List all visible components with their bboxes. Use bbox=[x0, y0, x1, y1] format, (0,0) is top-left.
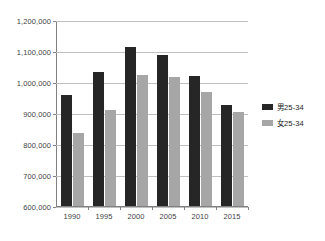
x-tick-mark bbox=[120, 207, 121, 210]
x-tick-mark bbox=[248, 207, 249, 210]
gridline bbox=[56, 145, 248, 146]
legend: 男25-34 女25-34 bbox=[262, 100, 304, 132]
bar-2010-female bbox=[201, 92, 212, 206]
legend-label-female: 女25-34 bbox=[277, 117, 304, 128]
bar-2015-female bbox=[233, 112, 244, 206]
bar-1990-female bbox=[73, 133, 84, 206]
gridline bbox=[56, 21, 248, 22]
bar-1990-male bbox=[61, 95, 72, 206]
chart-screenshot: 1,200,0001,100,0001,000,000900,000800,00… bbox=[0, 0, 325, 241]
y-tick-mark bbox=[53, 83, 56, 84]
bar-2000-female bbox=[137, 75, 148, 206]
legend-swatch-male-icon bbox=[262, 104, 273, 110]
legend-item-male: 男25-34 bbox=[262, 100, 304, 113]
y-tick-mark bbox=[53, 52, 56, 53]
gridline bbox=[56, 176, 248, 177]
gridline bbox=[56, 114, 248, 115]
y-tick-label: 600,000 bbox=[0, 203, 51, 212]
bar-2005-female bbox=[169, 77, 180, 206]
legend-label-male: 男25-34 bbox=[277, 101, 304, 112]
x-tick-mark bbox=[184, 207, 185, 210]
x-tick-mark bbox=[216, 207, 217, 210]
bar-1995-female bbox=[105, 110, 116, 206]
gridline bbox=[56, 83, 248, 84]
y-tick-mark bbox=[53, 207, 56, 208]
x-tick-mark bbox=[152, 207, 153, 210]
bar-2010-male bbox=[189, 76, 200, 206]
y-tick-label: 800,000 bbox=[0, 141, 51, 150]
y-tick-label: 900,000 bbox=[0, 110, 51, 119]
x-tick-label-2015: 2015 bbox=[212, 212, 252, 221]
y-tick-mark bbox=[53, 21, 56, 22]
y-tick-label: 1,200,000 bbox=[0, 17, 51, 26]
legend-item-female: 女25-34 bbox=[262, 116, 304, 129]
bar-2005-male bbox=[157, 55, 168, 206]
y-tick-mark bbox=[53, 176, 56, 177]
legend-swatch-female-icon bbox=[262, 120, 273, 126]
y-tick-mark bbox=[53, 114, 56, 115]
y-tick-label: 700,000 bbox=[0, 172, 51, 181]
gridline bbox=[56, 52, 248, 53]
y-tick-label: 1,100,000 bbox=[0, 48, 51, 57]
bar-1995-male bbox=[93, 72, 104, 206]
plot-area bbox=[56, 21, 248, 207]
y-tick-mark bbox=[53, 145, 56, 146]
bar-2015-male bbox=[221, 105, 232, 206]
bar-2000-male bbox=[125, 47, 136, 206]
x-tick-mark bbox=[88, 207, 89, 210]
y-tick-label: 1,000,000 bbox=[0, 79, 51, 88]
